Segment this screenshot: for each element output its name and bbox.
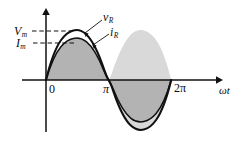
ir-symbol: i [110, 25, 113, 39]
waveform-plot [0, 0, 239, 142]
ir-curve-label: iR [110, 26, 118, 38]
ir-subscript: R [114, 31, 119, 40]
im-axis-label: Im [16, 37, 25, 49]
vr-leader-line [85, 20, 102, 33]
vr-symbol: v [103, 10, 108, 24]
x-tick-label-pi: π [103, 83, 109, 95]
x-axis-arrow-icon [216, 76, 223, 84]
x-tick-label-two-pi: 2π [174, 82, 186, 94]
ir-leader-line [93, 34, 109, 45]
y-axis-arrow-icon [42, 8, 50, 15]
vr-subscript: R [109, 16, 114, 25]
vr-curve-label: vR [103, 11, 113, 23]
im-subscript: m [20, 42, 25, 51]
x-axis-label: ωt [219, 85, 230, 96]
waveform-figure: Vm Im vR iR 0 π 2π ωt [0, 0, 239, 142]
x-tick-label-origin: 0 [49, 83, 55, 95]
